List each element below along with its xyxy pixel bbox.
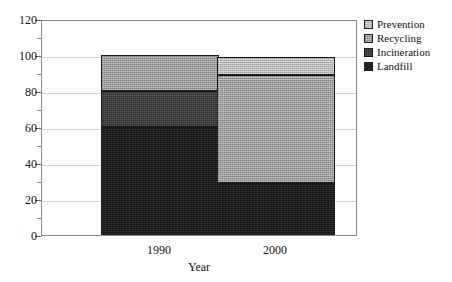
- bar-stack-2000[interactable]: [217, 19, 335, 235]
- bar-stack-1990[interactable]: [101, 19, 219, 235]
- legend-swatch-landfill-icon: [364, 62, 373, 71]
- legend-swatch-prevention-icon: [364, 20, 373, 29]
- bar-segment-1990-incineration[interactable]: [101, 91, 219, 127]
- y-tick-label-80: 80: [25, 85, 37, 100]
- legend-item-incineration[interactable]: Incineration: [364, 46, 430, 59]
- y-tick-label-60: 60: [25, 121, 37, 136]
- y-tick-label-120: 120: [19, 13, 37, 28]
- legend-swatch-recycling-icon: [364, 34, 373, 43]
- y-tick-label-100: 100: [19, 49, 37, 64]
- legend-item-prevention[interactable]: Prevention: [364, 18, 430, 31]
- y-tick-label-20: 20: [25, 193, 37, 208]
- x-axis-title: Year: [0, 260, 398, 275]
- chart-figure: 020406080100120 19902000 Year Prevention…: [0, 0, 452, 282]
- y-tick-label-0: 0: [31, 229, 37, 244]
- legend-item-landfill[interactable]: Landfill: [364, 60, 430, 73]
- legend-swatch-incineration-icon: [364, 48, 373, 57]
- legend-label: Prevention: [377, 19, 425, 30]
- bar-segment-1990-landfill[interactable]: [101, 127, 219, 235]
- bar-segment-2000-landfill[interactable]: [217, 183, 335, 235]
- legend-label: Landfill: [377, 61, 412, 72]
- legend-label: Recycling: [377, 33, 422, 44]
- x-tick-label-1990: 1990: [147, 243, 171, 258]
- x-tick-label-2000: 2000: [263, 243, 287, 258]
- bar-segment-2000-recycling[interactable]: [217, 75, 335, 183]
- chart-legend: PreventionRecyclingIncinerationLandfill: [364, 18, 430, 74]
- bar-segment-2000-prevention[interactable]: [217, 57, 335, 75]
- y-tick-label-40: 40: [25, 157, 37, 172]
- legend-item-recycling[interactable]: Recycling: [364, 32, 430, 45]
- legend-label: Incineration: [377, 47, 430, 58]
- bar-segment-1990-recycling[interactable]: [101, 55, 219, 91]
- plot-area: [41, 20, 357, 236]
